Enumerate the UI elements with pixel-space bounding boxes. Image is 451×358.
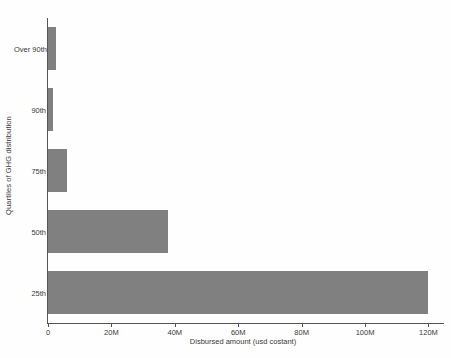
x-axis-title: Disbursed amount (usd costant) bbox=[48, 337, 438, 346]
x-tick-label-40M: 40M bbox=[168, 328, 183, 337]
x-tick-mark-5 bbox=[365, 324, 366, 327]
x-tick-mark-1 bbox=[111, 324, 112, 327]
x-tick-label-100M: 100M bbox=[356, 328, 375, 337]
x-tick-mark-0 bbox=[48, 324, 49, 327]
y-tick-label-75th: 75th bbox=[14, 166, 46, 175]
bar-50th bbox=[48, 210, 168, 253]
x-tick-label-120M: 120M bbox=[419, 328, 438, 337]
bar-90th bbox=[48, 88, 53, 131]
y-tick-label-25th: 25th bbox=[14, 288, 46, 297]
x-tick-label-60M: 60M bbox=[231, 328, 246, 337]
x-tick-mark-2 bbox=[175, 324, 176, 327]
x-tick-label-20M: 20M bbox=[104, 328, 119, 337]
y-axis-title-text: Quartiles of GHG distribution bbox=[4, 116, 13, 215]
y-tick-label-over-90th: Over 90th bbox=[14, 44, 46, 53]
x-tick-mark-3 bbox=[238, 324, 239, 327]
x-tick-label-0: 0 bbox=[46, 328, 50, 337]
x-tick-mark-4 bbox=[302, 324, 303, 327]
y-axis-tick-labels: 25th50th75th90thOver 90th bbox=[14, 18, 46, 323]
y-tick-label-50th: 50th bbox=[14, 227, 46, 236]
y-tick-label-90th: 90th bbox=[14, 105, 46, 114]
x-tick-mark-6 bbox=[428, 324, 429, 327]
x-tick-label-80M: 80M bbox=[294, 328, 309, 337]
plot-area bbox=[48, 18, 438, 323]
bar-over-90th bbox=[48, 27, 56, 70]
bar-75th bbox=[48, 149, 67, 192]
bar-chart: Quartiles of GHG distribution 25th50th75… bbox=[0, 0, 451, 358]
bar-25th bbox=[48, 271, 428, 314]
